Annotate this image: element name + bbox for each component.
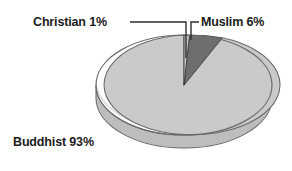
pie-chart-figure: Christian 1% Muslim 6% Buddhist 93% [0, 0, 292, 171]
slice-label-buddhist: Buddhist 93% [13, 135, 94, 149]
slice-label-christian: Christian 1% [33, 15, 107, 29]
slice-label-muslim: Muslim 6% [201, 15, 264, 29]
